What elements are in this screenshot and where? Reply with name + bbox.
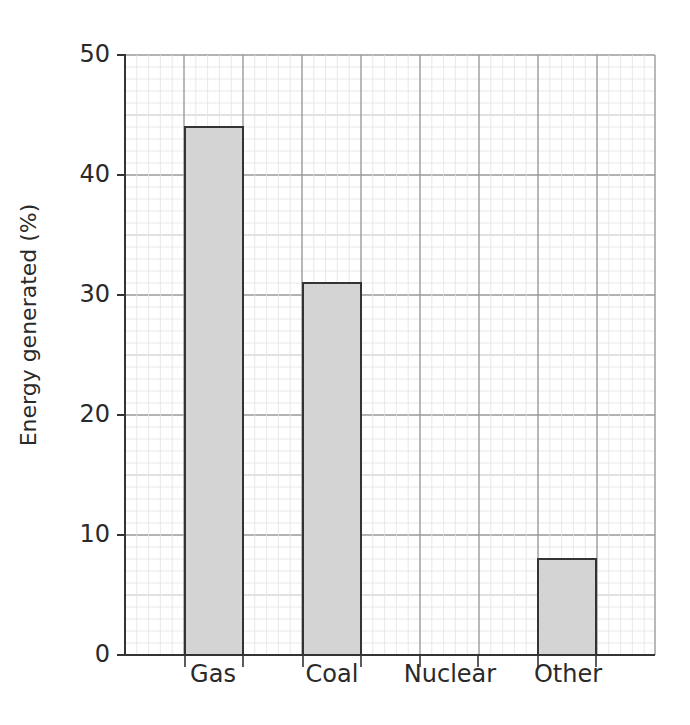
y-tick-0: 0 bbox=[50, 640, 110, 668]
bar-gas bbox=[185, 127, 243, 655]
x-label-gas: Gas bbox=[153, 660, 273, 688]
plot-area bbox=[0, 0, 690, 725]
bar-other bbox=[538, 559, 596, 655]
bar-chart: Energy generated (%) 0 10 20 30 40 50 Ga… bbox=[0, 0, 690, 725]
y-tick-40: 40 bbox=[50, 160, 110, 188]
x-label-nuclear: Nuclear bbox=[390, 660, 510, 688]
y-tick-10: 10 bbox=[50, 520, 110, 548]
x-label-coal: Coal bbox=[272, 660, 392, 688]
bar-coal bbox=[303, 283, 361, 655]
y-tick-50: 50 bbox=[50, 40, 110, 68]
y-tick-20: 20 bbox=[50, 400, 110, 428]
x-label-other: Other bbox=[508, 660, 628, 688]
y-tick-30: 30 bbox=[50, 280, 110, 308]
y-axis-label: Energy generated (%) bbox=[16, 204, 41, 447]
